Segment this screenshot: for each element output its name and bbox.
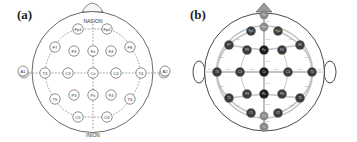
- electrode-label: Fp1: [74, 27, 82, 32]
- svg-text:10%: 10%: [208, 68, 212, 70]
- svg-text:20%: 20%: [220, 85, 224, 87]
- electrode-label: F3: [245, 48, 249, 52]
- electrode-label: Fz: [91, 49, 96, 54]
- svg-text:10%: 10%: [236, 104, 240, 106]
- electrode-c3: C3: [235, 67, 244, 76]
- electrode-label: F7: [53, 45, 59, 50]
- svg-text:10%: 10%: [236, 38, 240, 40]
- electrode-oz: Oz: [260, 112, 268, 120]
- svg-text:20%: 20%: [266, 103, 270, 105]
- svg-text:20%: 20%: [250, 68, 254, 70]
- electrode-label: C3: [65, 71, 71, 76]
- electrode-fp1: Fp1: [73, 24, 83, 34]
- electrode-c3: C3: [63, 68, 73, 78]
- electrode-label: Nz: [262, 13, 266, 17]
- electrode-label: T5: [53, 97, 59, 102]
- electrode-o2: O2: [273, 108, 282, 117]
- electrode-label: T3: [43, 71, 49, 76]
- electrode-label: O2: [276, 111, 280, 115]
- electrode-t5: T5: [224, 93, 233, 102]
- electrode-fpz: Fpz: [260, 23, 268, 31]
- svg-text:20%: 20%: [220, 56, 224, 58]
- electrode-label: P3: [71, 93, 77, 98]
- electrode-f4: F4: [106, 46, 116, 56]
- svg-text:20%: 20%: [266, 82, 270, 84]
- electrode-label: Fpz: [261, 25, 267, 29]
- svg-text:20%: 20%: [266, 38, 270, 40]
- svg-text:20%: 20%: [305, 85, 309, 87]
- electrode-a1: A1: [18, 66, 28, 76]
- electrode-label: A2: [162, 69, 168, 74]
- svg-text:20%: 20%: [266, 60, 270, 62]
- eeg-10-20-figure: (a) NASION INION Fp1Fp2F7F3FzF4F8A1T3C3C…: [0, 0, 357, 142]
- right-ear-icon: [324, 61, 336, 83]
- electrode-label: Pz: [262, 92, 266, 96]
- electrode-t6: T6: [125, 94, 135, 104]
- electrode-c4: C4: [283, 67, 292, 76]
- electrode-label: P4: [108, 93, 114, 98]
- svg-text:20%: 20%: [305, 56, 309, 58]
- electrode-f7: F7: [50, 42, 60, 52]
- electrode-label: F4: [280, 48, 284, 52]
- panel-a-label: (a): [17, 7, 32, 22]
- electrode-label: T6: [128, 97, 134, 102]
- electrode-t3: T3: [40, 68, 50, 78]
- electrode-c4: C4: [111, 68, 121, 78]
- electrode-fz: Fz: [259, 45, 268, 54]
- electrode-o1: O1: [73, 112, 83, 122]
- electrode-f8: F8: [295, 40, 304, 49]
- electrode-label: O1: [249, 111, 253, 115]
- electrode-f3: F3: [69, 46, 79, 56]
- electrode-fz: Fz: [88, 46, 98, 56]
- electrode-t6: T6: [295, 93, 304, 102]
- electrode-p3: P3: [69, 90, 79, 100]
- electrode-label: Fz: [262, 48, 266, 52]
- electrode-t4: T4: [307, 67, 316, 76]
- electrode-o1: O1: [246, 108, 255, 117]
- electrode-label: Cz: [262, 70, 266, 74]
- electrode-label: O1: [75, 115, 81, 120]
- electrode-nz: Nz: [260, 11, 268, 19]
- electrode-label: P4: [280, 92, 284, 96]
- inion-label: INION: [86, 132, 100, 138]
- electrode-label: Fp2: [103, 27, 111, 32]
- panel-b-label: (b): [190, 7, 206, 22]
- svg-text:10%: 10%: [289, 104, 293, 106]
- electrode-f4: F4: [277, 45, 286, 54]
- electrode-label: C4: [286, 70, 290, 74]
- electrode-label: Pz: [91, 93, 96, 98]
- electrode-o2: O2: [102, 112, 112, 122]
- electrode-label: P3: [245, 92, 249, 96]
- nasion-label: NASION: [83, 18, 103, 24]
- electrode-pz: Pz: [259, 89, 268, 98]
- electrode-label: C4: [113, 71, 119, 76]
- svg-text:20%: 20%: [226, 68, 230, 70]
- electrode-a2: A2: [160, 66, 170, 76]
- svg-text:10%: 10%: [318, 68, 322, 70]
- electrode-fp1: Fp1: [246, 26, 255, 35]
- electrode-fp2: Fp2: [273, 26, 282, 35]
- electrode-label: Fp1: [248, 29, 254, 33]
- electrode-f8: F8: [125, 42, 135, 52]
- electrode-label: F4: [109, 49, 115, 54]
- electrode-p3: P3: [242, 89, 251, 98]
- electrode-label: Cz: [90, 71, 95, 76]
- svg-text:20%: 20%: [298, 68, 302, 70]
- electrode-label: F7: [227, 43, 231, 47]
- electrode-label: F8: [128, 45, 134, 50]
- electrode-t4: T4: [136, 68, 146, 78]
- electrode-label: T4: [139, 71, 145, 76]
- electrode-cz: Cz: [88, 68, 98, 78]
- svg-text:10%: 10%: [266, 120, 270, 122]
- electrode-fp2: Fp2: [102, 24, 112, 34]
- electrode-p4: P4: [106, 90, 116, 100]
- left-ear-icon: [193, 61, 205, 83]
- electrode-label: F3: [72, 49, 78, 54]
- electrode-label: T4: [310, 70, 314, 74]
- panel-b: (b) 10% 20% 20% 20%: [190, 3, 336, 131]
- svg-text:10%: 10%: [289, 38, 293, 40]
- electrode-label: Oz: [262, 114, 266, 118]
- nose-icon: [82, 3, 103, 12]
- panel-a: (a) NASION INION Fp1Fp2F7F3FzF4F8A1T3C3C…: [17, 3, 170, 138]
- electrode-f3: F3: [242, 45, 251, 54]
